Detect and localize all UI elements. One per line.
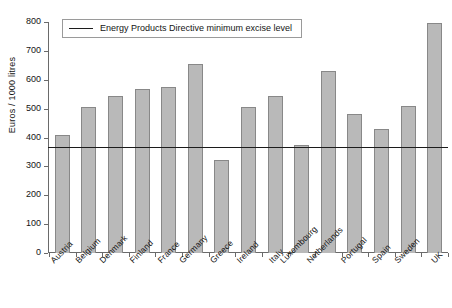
- x-axis-label-slot: France: [155, 256, 182, 308]
- x-axis-label-slot: Austria: [49, 256, 76, 308]
- bar-slot: [155, 22, 182, 253]
- legend-line-icon: [69, 28, 93, 29]
- x-axis-label-slot: Netherlands: [315, 256, 342, 308]
- y-axis-tick-label: 600: [26, 74, 41, 85]
- bar-slot: [421, 22, 448, 253]
- x-axis-label-slot: Sweden: [395, 256, 422, 308]
- legend: Energy Products Directive minimum excise…: [62, 19, 302, 38]
- bar[interactable]: [427, 23, 442, 253]
- bar-slot: [262, 22, 289, 253]
- x-axis-label-slot: Ireland: [235, 256, 262, 308]
- bar-chart: Euros / 1000 litres 80070060050040030020…: [0, 0, 452, 308]
- y-axis-tick-label: 100: [26, 218, 41, 229]
- bar[interactable]: [55, 135, 70, 253]
- y-axis-tick-mark: [44, 253, 48, 254]
- legend-label: Energy Products Directive minimum excise…: [100, 23, 292, 34]
- bar-slot: [288, 22, 315, 253]
- bar-slot: [102, 22, 129, 253]
- y-axis-tick-label: 0: [36, 247, 41, 258]
- y-axis-tick-label: 200: [26, 189, 41, 200]
- minimum-excise-threshold-line: [48, 147, 448, 148]
- y-axis-tick-label: 500: [26, 103, 41, 114]
- bar[interactable]: [321, 71, 336, 253]
- y-axis-ticks: 8007006005004003002001000: [0, 22, 48, 253]
- y-axis-tick-label: 700: [26, 45, 41, 56]
- x-axis-tick-mark: [448, 253, 449, 257]
- bar[interactable]: [108, 96, 123, 253]
- bar[interactable]: [188, 64, 203, 253]
- x-axis-label-slot: Portugal: [342, 256, 369, 308]
- bar-slot: [342, 22, 369, 253]
- y-axis-tick-label: 300: [26, 160, 41, 171]
- bar-slot: [129, 22, 156, 253]
- x-axis-label-slot: Denmark: [102, 256, 129, 308]
- bar[interactable]: [401, 106, 416, 253]
- bar-slot: [49, 22, 76, 253]
- bar[interactable]: [161, 87, 176, 253]
- x-axis-label-slot: Spain: [368, 256, 395, 308]
- bar[interactable]: [81, 107, 96, 253]
- bar-slot: [368, 22, 395, 253]
- bar-slot: [182, 22, 209, 253]
- y-axis-tick-label: 400: [26, 132, 41, 143]
- bar-slot: [315, 22, 342, 253]
- x-axis-label-slot: UK: [421, 256, 448, 308]
- bar-slot: [76, 22, 103, 253]
- bar-series: [49, 22, 448, 253]
- bar[interactable]: [241, 107, 256, 253]
- x-axis-label-slot: Germany: [182, 256, 209, 308]
- x-axis-label-slot: Finland: [129, 256, 156, 308]
- x-axis-label-slot: Greece: [209, 256, 236, 308]
- bar[interactable]: [347, 114, 362, 253]
- bar-slot: [395, 22, 422, 253]
- y-axis-tick-label: 800: [26, 16, 41, 27]
- bar-slot: [235, 22, 262, 253]
- x-axis-label-slot: Belgium: [76, 256, 103, 308]
- bar[interactable]: [374, 129, 389, 253]
- x-axis-labels: AustriaBelgiumDenmarkFinlandFranceGerman…: [49, 256, 448, 308]
- bar[interactable]: [135, 89, 150, 253]
- bar-slot: [209, 22, 236, 253]
- bar[interactable]: [268, 96, 283, 253]
